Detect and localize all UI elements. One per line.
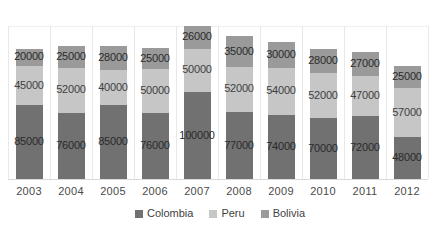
bar-group[interactable]: 2600050000100000 xyxy=(184,26,211,179)
bar-segment-bolivia[interactable]: 25000 xyxy=(394,66,421,88)
x-tick-label-2004: 2004 xyxy=(50,184,92,198)
bar-segment-bolivia[interactable]: 25000 xyxy=(58,46,85,68)
bar-value-label: 25000 xyxy=(392,70,422,83)
bar-value-label: 20000 xyxy=(14,50,44,63)
bar-value-label: 35000 xyxy=(224,45,254,58)
gridline xyxy=(428,26,429,179)
bar-segment-colombia[interactable]: 76000 xyxy=(142,113,169,179)
bar-value-label: 45000 xyxy=(14,79,44,92)
bar-segment-colombia[interactable]: 76000 xyxy=(58,113,85,179)
bar-value-label: 72000 xyxy=(350,141,380,154)
x-axis: 2003200420052006200720082009201020112012 xyxy=(8,179,428,201)
x-tick-label-2012: 2012 xyxy=(386,184,428,198)
gridline xyxy=(176,26,177,179)
bar-value-label: 77000 xyxy=(224,139,254,152)
x-tick-label-2010: 2010 xyxy=(302,184,344,198)
gridline xyxy=(386,26,387,179)
bar-value-label: 57000 xyxy=(392,106,422,119)
bar-value-label: 52000 xyxy=(308,89,338,102)
bar-segment-peru[interactable]: 50000 xyxy=(184,49,211,92)
x-axis-line xyxy=(8,179,428,180)
bar-segment-peru[interactable]: 52000 xyxy=(226,67,253,112)
legend-item-colombia[interactable]: Colombia xyxy=(135,207,193,220)
bar-segment-colombia[interactable]: 100000 xyxy=(184,92,211,179)
legend-label: Peru xyxy=(221,207,244,220)
bar-value-label: 48000 xyxy=(392,151,422,164)
gridline xyxy=(8,26,9,179)
bar-segment-bolivia[interactable]: 26000 xyxy=(184,26,211,49)
bar-segment-colombia[interactable]: 85000 xyxy=(100,105,127,179)
bar-segment-bolivia[interactable]: 25000 xyxy=(142,48,169,70)
bar-segment-peru[interactable]: 45000 xyxy=(16,66,43,105)
bar-segment-peru[interactable]: 52000 xyxy=(58,68,85,113)
gridline xyxy=(92,26,93,179)
bar-group[interactable]: 250005200076000 xyxy=(58,46,85,179)
legend-label: Bolivia xyxy=(273,207,305,220)
bar-segment-peru[interactable]: 52000 xyxy=(310,73,337,118)
bar-value-label: 30000 xyxy=(266,48,296,61)
gridline xyxy=(260,26,261,179)
bar-segment-bolivia[interactable]: 28000 xyxy=(310,49,337,73)
bar-segment-colombia[interactable]: 77000 xyxy=(226,112,253,179)
bar-value-label: 25000 xyxy=(140,52,170,65)
stacked-bar-chart: 2000045000850002500052000760002800040000… xyxy=(0,0,440,235)
x-tick-label-2009: 2009 xyxy=(260,184,302,198)
legend-item-peru[interactable]: Peru xyxy=(209,207,244,220)
bar-segment-peru[interactable]: 50000 xyxy=(142,69,169,112)
bar-value-label: 85000 xyxy=(14,135,44,148)
bar-group[interactable]: 250005700048000 xyxy=(394,66,421,179)
bar-value-label: 50000 xyxy=(140,84,170,97)
bar-segment-colombia[interactable]: 85000 xyxy=(16,105,43,179)
bar-value-label: 40000 xyxy=(98,81,128,94)
bar-group[interactable]: 200004500085000 xyxy=(16,49,43,179)
bar-segment-bolivia[interactable]: 28000 xyxy=(100,46,127,70)
bar-group[interactable]: 270004700072000 xyxy=(352,52,379,179)
bar-value-label: 47000 xyxy=(350,89,380,102)
bar-segment-bolivia[interactable]: 35000 xyxy=(226,36,253,66)
bar-segment-bolivia[interactable]: 27000 xyxy=(352,52,379,75)
bar-group[interactable]: 350005200077000 xyxy=(226,36,253,179)
bar-segment-colombia[interactable]: 70000 xyxy=(310,118,337,179)
bar-value-label: 76000 xyxy=(56,139,86,152)
bar-value-label: 76000 xyxy=(140,139,170,152)
bar-segment-peru[interactable]: 54000 xyxy=(268,68,295,115)
legend-swatch-icon xyxy=(135,210,143,218)
bar-value-label: 26000 xyxy=(182,30,212,43)
bar-group[interactable]: 300005400074000 xyxy=(268,42,295,179)
bar-value-label: 70000 xyxy=(308,142,338,155)
plot-area: 2000045000850002500052000760002800040000… xyxy=(8,26,428,179)
bar-segment-colombia[interactable]: 72000 xyxy=(352,116,379,179)
bar-value-label: 25000 xyxy=(56,50,86,63)
legend-label: Colombia xyxy=(147,207,193,220)
bar-value-label: 85000 xyxy=(98,135,128,148)
bar-value-label: 50000 xyxy=(182,63,212,76)
x-tick-label-2005: 2005 xyxy=(92,184,134,198)
legend-item-bolivia[interactable]: Bolivia xyxy=(261,207,305,220)
bar-segment-peru[interactable]: 57000 xyxy=(394,88,421,138)
gridline xyxy=(218,26,219,179)
gridline xyxy=(344,26,345,179)
bar-segment-peru[interactable]: 47000 xyxy=(352,76,379,117)
bar-segment-bolivia[interactable]: 30000 xyxy=(268,42,295,68)
bar-value-label: 54000 xyxy=(266,84,296,97)
bar-value-label: 100000 xyxy=(179,129,215,142)
bar-group[interactable]: 280005200070000 xyxy=(310,49,337,179)
bar-value-label: 74000 xyxy=(266,140,296,153)
bar-segment-bolivia[interactable]: 20000 xyxy=(16,49,43,66)
bar-value-label: 27000 xyxy=(350,57,380,70)
x-tick-label-2006: 2006 xyxy=(134,184,176,198)
bar-segment-colombia[interactable]: 74000 xyxy=(268,115,295,179)
bar-segment-peru[interactable]: 40000 xyxy=(100,70,127,105)
x-tick-label-2011: 2011 xyxy=(344,184,386,198)
bar-segment-colombia[interactable]: 48000 xyxy=(394,137,421,179)
bar-group[interactable]: 250005000076000 xyxy=(142,48,169,179)
bar-value-label: 28000 xyxy=(98,51,128,64)
bar-value-label: 52000 xyxy=(56,83,86,96)
legend-swatch-icon xyxy=(209,210,217,218)
bar-group[interactable]: 280004000085000 xyxy=(100,46,127,179)
x-tick-label-2008: 2008 xyxy=(218,184,260,198)
chart-legend: ColombiaPeruBolivia xyxy=(0,207,440,220)
x-tick-label-2003: 2003 xyxy=(8,184,50,198)
x-tick-label-2007: 2007 xyxy=(176,184,218,198)
gridline xyxy=(134,26,135,179)
